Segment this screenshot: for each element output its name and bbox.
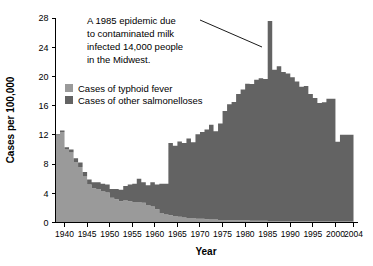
legend-swatch-salmonelloses [65, 96, 73, 104]
annotation-line-3: infected 14,000 people [87, 41, 183, 52]
x-tick-label: 1950 [100, 229, 119, 239]
x-tick-label: 1965 [168, 229, 187, 239]
y-tick-label: 0 [43, 218, 48, 228]
x-tick-label: 1960 [145, 229, 164, 239]
x-tick-label: 1995 [303, 229, 322, 239]
legend-swatch-typhoid [65, 84, 73, 92]
annotation-line-2: to contaminated milk [87, 28, 174, 39]
x-tick-label: 1985 [258, 229, 277, 239]
x-tick-label: 1975 [213, 229, 232, 239]
x-tick-label: 2000 [326, 229, 345, 239]
y-tick-label: 4 [43, 189, 48, 199]
x-tick-label: 1970 [191, 229, 210, 239]
legend-label-typhoid: Cases of typhoid fever [78, 83, 173, 94]
y-axis-title: Cases per 100,000 [5, 76, 16, 163]
y-tick-label: 24 [38, 43, 48, 53]
x-axis-title: Year [195, 246, 216, 257]
x-tick-label: 1990 [281, 229, 300, 239]
y-tick-label: 12 [38, 130, 48, 140]
y-tick-label: 16 [38, 101, 48, 111]
x-tick-label: 2004 [344, 229, 363, 239]
x-tick-label: 1980 [236, 229, 255, 239]
y-tick-label: 8 [43, 159, 48, 169]
y-tick-label: 20 [38, 72, 48, 82]
chart-figure: 0481216202428 19401945195019551960196519… [0, 0, 373, 266]
annotation-line-1: A 1985 epidemic due [87, 15, 176, 26]
y-tick-label: 28 [38, 13, 48, 23]
legend-label-salmonelloses: Cases of other salmonelloses [78, 95, 203, 106]
salmonellosis-incidence-chart: 0481216202428 19401945195019551960196519… [0, 0, 373, 266]
x-tick-label: 1940 [55, 229, 74, 239]
annotation-line-4: in the Midwest. [87, 54, 150, 65]
x-tick-label: 1955 [123, 229, 142, 239]
x-tick-label: 1945 [78, 229, 97, 239]
